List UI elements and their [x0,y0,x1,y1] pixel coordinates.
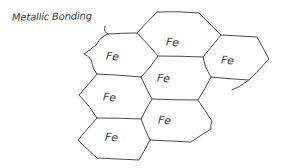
cell-label-top: Fe [166,36,180,50]
cell-label-right: Fe [221,54,235,68]
hex-upper-left-outline [84,33,158,77]
metallic-bonding-diagram: Metallic Bonding Fe Fe Fe Fe Fe Fe Fe [0,0,282,168]
hex-lower-right-outline [141,100,212,142]
cell-label-left-middle: Fe [103,91,117,105]
diagram-title: Metallic Bonding [12,10,92,22]
cell-label-upper-left: Fe [106,50,120,64]
title-connector [104,26,108,34]
cell-label-center: Fe [157,72,171,86]
cell-label-lower-right: Fe [158,114,172,128]
hex-top-outline [137,12,221,57]
hex-right-tail [232,80,249,90]
hex-center-outline [141,77,211,100]
cell-label-bottom-left: Fe [105,131,119,145]
hexagon-lattice [0,0,282,168]
hex-right-outline [203,35,269,80]
